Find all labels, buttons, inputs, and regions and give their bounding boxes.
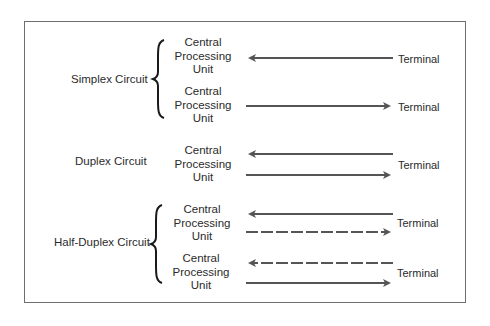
arrows-layer <box>0 0 490 326</box>
